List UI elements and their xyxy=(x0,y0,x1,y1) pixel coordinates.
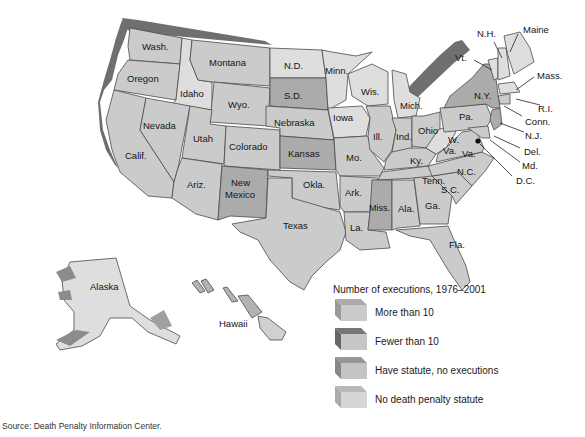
label-ind: Ind. xyxy=(396,131,412,142)
label-ariz: Ariz. xyxy=(187,179,206,190)
label-utah: Utah xyxy=(193,133,213,144)
label-wis: Wis. xyxy=(361,86,379,97)
label-calif: Calif. xyxy=(125,150,147,161)
label-maine: Maine xyxy=(523,24,549,35)
label-ohio: Ohio xyxy=(418,125,438,136)
label-sd: S.D. xyxy=(284,90,302,101)
state-wisconsin xyxy=(348,64,388,106)
label-ny: N.Y. xyxy=(474,90,491,101)
label-dc: D.C. xyxy=(516,175,535,186)
label-ill: Ill. xyxy=(373,131,383,142)
label-del: Del. xyxy=(524,146,541,157)
state-massachusetts xyxy=(498,82,520,94)
label-kansas: Kansas xyxy=(288,148,320,159)
swatch-no-statute-icon xyxy=(335,386,371,408)
label-okla: Okla. xyxy=(303,179,325,190)
label-ala: Ala. xyxy=(398,203,414,214)
legend-label: Fewer than 10 xyxy=(375,336,439,347)
legend-item-have-statute: Have statute, no executions xyxy=(333,357,583,381)
source-note: Source: Death Penalty Information Center… xyxy=(2,421,162,431)
label-nd: N.D. xyxy=(284,60,303,71)
legend-title: Number of executions, 1976–2001 xyxy=(333,284,583,295)
dc-marker xyxy=(475,138,480,143)
label-sc: S.C. xyxy=(441,184,459,195)
label-mo: Mo. xyxy=(346,152,362,163)
legend-label: No death penalty statute xyxy=(375,394,483,405)
label-va: Va. xyxy=(462,148,476,159)
swatch-have-statute-icon xyxy=(335,357,371,379)
label-wash: Wash. xyxy=(142,41,169,52)
label-minn: Minn. xyxy=(325,65,348,76)
label-nevada: Nevada xyxy=(143,120,176,131)
state-new-jersey xyxy=(490,108,502,130)
label-colorado: Colorado xyxy=(229,141,268,152)
label-pa: Pa. xyxy=(459,111,473,122)
label-wv-va: Va. xyxy=(443,145,457,156)
label-hawaii: Hawaii xyxy=(219,318,248,329)
legend-item-more-than-10: More than 10 xyxy=(333,299,583,323)
label-wv-w: W. xyxy=(448,134,459,145)
label-conn: Conn. xyxy=(525,116,550,127)
label-ark: Ark. xyxy=(345,187,362,198)
state-florida xyxy=(396,226,470,290)
legend-item-fewer-than-10: Fewer than 10 xyxy=(333,328,583,352)
label-nh: N.H. xyxy=(477,28,496,39)
hawaii-island-4 xyxy=(238,295,262,318)
label-mexico: Mexico xyxy=(225,189,255,200)
label-montana: Montana xyxy=(209,57,247,68)
hawaii-island-3 xyxy=(223,287,238,302)
legend: Number of executions, 1976–2001 More tha… xyxy=(333,284,583,415)
label-wyo: Wyo. xyxy=(228,99,250,110)
swatch-more-than-10-icon xyxy=(335,299,371,321)
label-nebraska: Nebraska xyxy=(274,117,315,128)
label-new: New xyxy=(231,177,250,188)
legend-item-no-statute: No death penalty statute xyxy=(333,386,583,410)
label-mass: Mass. xyxy=(537,70,562,81)
label-mich: Mich. xyxy=(400,100,423,111)
label-md: Md. xyxy=(522,160,538,171)
label-vt: Vt. xyxy=(455,52,467,63)
states-noncontiguous xyxy=(56,258,286,350)
label-ky: Ky. xyxy=(410,155,423,166)
label-iowa: Iowa xyxy=(333,112,354,123)
label-ri: R.I. xyxy=(538,103,553,114)
label-oregon: Oregon xyxy=(127,73,159,84)
hawaii-big-island xyxy=(258,316,286,340)
legend-label: More than 10 xyxy=(375,307,434,318)
label-ga: Ga. xyxy=(425,200,440,211)
swatch-fewer-than-10-icon xyxy=(335,328,371,350)
label-idaho: Idaho xyxy=(180,88,204,99)
state-connecticut xyxy=(498,94,510,104)
label-alaska: Alaska xyxy=(90,281,119,292)
label-fla: Fla. xyxy=(449,239,465,250)
label-texas: Texas xyxy=(283,220,308,231)
label-miss: Miss. xyxy=(369,203,390,213)
label-nj: N.J. xyxy=(525,130,542,141)
legend-label: Have statute, no executions xyxy=(375,365,498,376)
label-nc: N.C. xyxy=(457,166,476,177)
label-la: La. xyxy=(350,222,363,233)
